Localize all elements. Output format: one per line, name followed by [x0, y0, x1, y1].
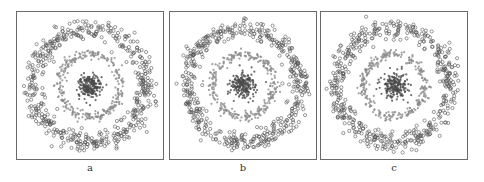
scatter-plot-a [17, 12, 163, 159]
caption-b: b [169, 162, 317, 173]
scatter-panel-a [16, 11, 164, 160]
center-cluster-points [227, 64, 268, 103]
caption-c: c [320, 162, 468, 173]
scatter-panel-b [169, 11, 317, 160]
scatter-plot-c [321, 12, 467, 159]
scatter-plot-b [170, 12, 316, 159]
caption-a: a [16, 162, 164, 173]
center-cluster-points [375, 66, 412, 104]
scatter-panel-c [320, 11, 468, 160]
center-cluster-points [76, 72, 108, 107]
